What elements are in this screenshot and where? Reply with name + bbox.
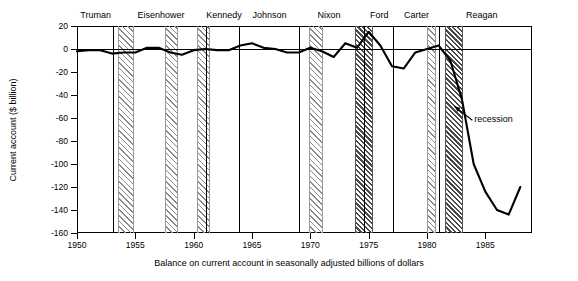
president-label: Truman [80, 10, 111, 20]
x-tick-label: 1980 [418, 240, 437, 250]
y-tick-label: -140 [51, 205, 68, 215]
x-tick-label: 1970 [301, 240, 320, 250]
x-tick [194, 233, 195, 239]
president-label: Ford [370, 10, 389, 20]
president-label: Reagan [466, 10, 498, 20]
president-label: Johnson [252, 10, 286, 20]
x-tick [77, 233, 78, 239]
x-tick [485, 233, 486, 239]
y-tick-label: -60 [56, 113, 68, 123]
plot-area: 200-20-40-60-80-100-120-140-160 19501955… [77, 26, 532, 233]
president-label: Carter [404, 10, 429, 20]
y-tick-label: -120 [51, 182, 68, 192]
president-label: Nixon [317, 10, 340, 20]
x-tick [310, 233, 311, 239]
x-axis-title: Balance on current account in seasonally… [0, 258, 578, 268]
x-tick [427, 233, 428, 239]
president-label: Kennedy [206, 10, 242, 20]
y-axis-title: Current account ($ billion) [6, 26, 20, 233]
y-tick-label: -100 [51, 159, 68, 169]
x-tick-label: 1960 [184, 240, 203, 250]
y-tick-label: -160 [51, 228, 68, 238]
x-tick [369, 233, 370, 239]
president-label: Eisenhower [137, 10, 184, 20]
x-tick [135, 233, 136, 239]
chart-container: Current account ($ billion) 200-20-40-60… [0, 0, 578, 281]
y-tick-label: -80 [56, 136, 68, 146]
data-line [77, 26, 532, 233]
y-tick-label: -40 [56, 90, 68, 100]
x-tick-label: 1975 [359, 240, 378, 250]
x-tick-label: 1965 [243, 240, 262, 250]
x-tick-label: 1950 [68, 240, 87, 250]
x-tick-label: 1985 [476, 240, 495, 250]
x-tick [252, 233, 253, 239]
y-tick-label: 20 [59, 21, 68, 31]
x-tick-label: 1955 [126, 240, 145, 250]
y-tick-label: 0 [63, 44, 68, 54]
annotation-recession: recession [474, 114, 513, 124]
y-tick-label: -20 [56, 67, 68, 77]
